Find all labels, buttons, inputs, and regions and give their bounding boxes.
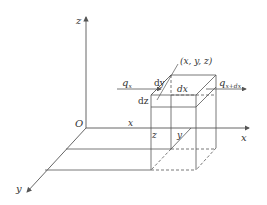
- projection-lines: [45, 128, 191, 170]
- y-axis: [27, 128, 86, 192]
- dy-label: dy: [154, 78, 166, 88]
- x-axis-label: x: [241, 132, 247, 143]
- origin-label: O: [75, 118, 83, 129]
- coord-y-label: y: [176, 130, 183, 140]
- coord-z-label: z: [151, 130, 157, 140]
- coord-x-label: x: [128, 118, 133, 128]
- z-axis-label: z: [75, 15, 82, 26]
- q-in-label: qx: [122, 77, 132, 89]
- y-axis-label: y: [15, 183, 22, 194]
- dz-label: dz: [138, 96, 149, 106]
- control-volume-diagram: z x y O (x, y, z) qx qx+dx dy dx dz x z …: [0, 0, 267, 205]
- point-label: (x, y, z): [180, 56, 213, 66]
- q-out-label: qx+dx: [219, 77, 242, 89]
- dx-label: dx: [177, 84, 188, 94]
